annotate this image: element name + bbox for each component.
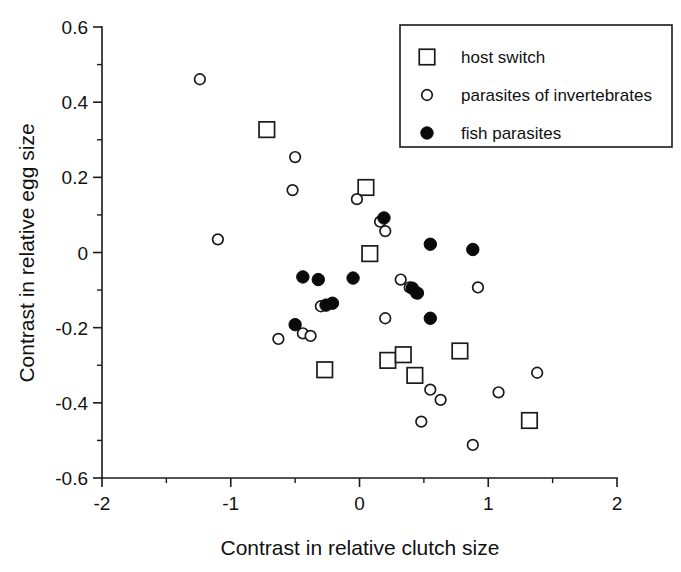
chart-legend: host switchparasites of invertebratesfis… [400, 25, 672, 147]
legend-item-label: host switch [461, 48, 545, 67]
x-tick-label: 0 [354, 493, 365, 514]
data-point [287, 185, 298, 196]
data-point [435, 395, 446, 406]
x-tick-label: -2 [94, 493, 111, 514]
data-point [290, 152, 301, 163]
y-tick-label: 0.2 [62, 167, 88, 188]
data-point [362, 246, 378, 262]
legend-marker-filled-circle-icon [421, 127, 433, 139]
data-point [352, 194, 363, 205]
data-point [380, 313, 391, 324]
data-point [468, 440, 479, 451]
data-point [407, 368, 423, 384]
y-tick-label: -0.4 [55, 393, 88, 414]
data-point [317, 362, 333, 378]
legend-item-label: parasites of invertebrates [461, 86, 652, 105]
y-tick-label: -0.6 [55, 468, 88, 489]
x-tick-label: 2 [612, 493, 623, 514]
data-point [396, 347, 412, 363]
data-point [416, 416, 427, 427]
y-tick-label: 0 [77, 243, 88, 264]
data-point [305, 331, 316, 342]
data-point [273, 334, 284, 345]
y-axis-tick-labels: 0.60.40.20-0.2-0.4-0.6 [55, 17, 88, 489]
y-tick-label: -0.2 [55, 318, 88, 339]
y-tick-label: 0.4 [62, 92, 89, 113]
scatter-plot-figure: -2-1012 0.60.40.20-0.2-0.4-0.6 Contrast … [0, 0, 681, 572]
data-point [358, 180, 374, 196]
data-point [380, 353, 396, 369]
data-point [312, 273, 324, 285]
data-point [522, 413, 538, 429]
data-point [473, 282, 484, 293]
data-point [395, 274, 406, 285]
x-axis-tick-labels: -2-1012 [94, 493, 623, 514]
data-point [259, 122, 275, 138]
legend-item-label: fish parasites [461, 124, 561, 143]
data-point [195, 74, 206, 85]
data-point [425, 384, 436, 395]
data-point [411, 287, 423, 299]
legend-marker-open-square-icon [419, 49, 435, 65]
y-tick-label: 0.6 [62, 17, 88, 38]
data-point [347, 272, 359, 284]
y-axis-title: Contrast in relative egg size [15, 123, 38, 382]
data-point [289, 318, 301, 330]
chart-canvas: -2-1012 0.60.40.20-0.2-0.4-0.6 Contrast … [0, 0, 681, 572]
data-point [424, 238, 436, 250]
x-tick-label: 1 [483, 493, 494, 514]
x-tick-label: -1 [222, 493, 239, 514]
legend-marker-open-circle-icon [422, 90, 433, 101]
data-point [452, 343, 468, 359]
x-axis-title: Contrast in relative clutch size [221, 536, 500, 559]
data-point [467, 243, 479, 255]
data-point [326, 297, 338, 309]
data-point [297, 271, 309, 283]
data-point [213, 234, 224, 245]
data-point [424, 312, 436, 324]
data-point [532, 367, 543, 378]
data-point [493, 387, 504, 398]
data-point [378, 212, 390, 224]
